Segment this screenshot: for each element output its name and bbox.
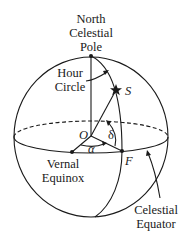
origin-label: O <box>79 128 88 142</box>
hour-circle-leader <box>86 72 107 81</box>
foot-dot <box>120 149 124 153</box>
celestial-equator-leader-arrowhead <box>146 150 151 156</box>
hour-circle-label-1: Hour <box>57 66 84 80</box>
declination-label: δ <box>108 128 114 142</box>
radius-to-foot <box>91 136 122 151</box>
celestial-equator-label-2: Equator <box>136 217 176 231</box>
vernal-equinox-label-2: Equinox <box>42 171 85 185</box>
right-ascension-label: α <box>88 142 95 156</box>
hour-circle <box>91 56 122 217</box>
celestial-equator-label-1: Celestial <box>134 203 178 217</box>
north-pole-dot <box>89 54 93 58</box>
north-pole-label-3: Pole <box>80 40 103 54</box>
star-label: S <box>125 84 132 98</box>
north-pole-label-2: Celestial <box>69 26 113 40</box>
vernal-equinox-dot <box>70 150 74 154</box>
north-pole-label-1: North <box>76 12 106 26</box>
celestial-sphere-diagram: North Celestial Pole Hour Circle S O δ α… <box>0 0 185 244</box>
foot-label: F <box>124 154 133 168</box>
right-ascension-arrowhead <box>102 141 107 146</box>
hour-circle-label-2: Circle <box>55 80 86 94</box>
vernal-equinox-label-1: Vernal <box>47 157 80 171</box>
